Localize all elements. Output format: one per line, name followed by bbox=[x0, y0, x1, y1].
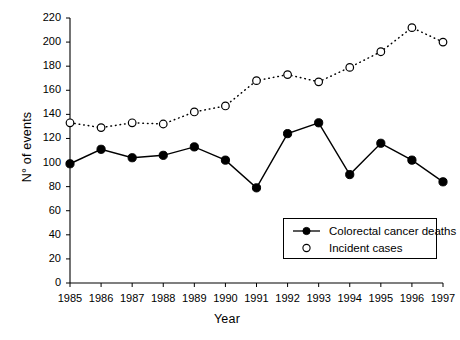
data-point bbox=[191, 108, 199, 116]
x-tick-label: 1985 bbox=[53, 292, 87, 304]
legend-label-colorectal-cancer-deaths: Colorectal cancer deaths bbox=[329, 225, 456, 237]
data-point bbox=[222, 102, 230, 110]
data-point bbox=[97, 145, 105, 153]
y-tick-label: 140 bbox=[27, 107, 61, 119]
x-tick-label: 1992 bbox=[271, 292, 305, 304]
data-point bbox=[408, 156, 416, 164]
x-tick-label: 1993 bbox=[302, 292, 336, 304]
data-point bbox=[346, 170, 354, 178]
x-tick-label: 1988 bbox=[146, 292, 180, 304]
x-tick-label: 1989 bbox=[177, 292, 211, 304]
data-point bbox=[190, 143, 198, 151]
data-point bbox=[439, 38, 447, 46]
y-tick-label: 60 bbox=[27, 204, 61, 216]
y-tick-label: 80 bbox=[27, 180, 61, 192]
data-point bbox=[252, 184, 260, 192]
x-axis-ticks bbox=[70, 283, 443, 287]
data-point bbox=[408, 24, 416, 32]
data-point bbox=[159, 151, 167, 159]
x-tick-label: 1996 bbox=[395, 292, 429, 304]
data-point bbox=[66, 160, 74, 168]
data-point bbox=[159, 120, 167, 128]
data-point bbox=[97, 124, 105, 132]
data-point bbox=[315, 78, 323, 86]
y-tick-label: 120 bbox=[27, 131, 61, 143]
data-point bbox=[283, 130, 291, 138]
y-tick-label: 180 bbox=[27, 59, 61, 71]
series-markers-incident-cases bbox=[66, 24, 447, 132]
data-point bbox=[439, 178, 447, 186]
data-point bbox=[66, 119, 74, 127]
data-point bbox=[377, 48, 385, 56]
y-axis-ticks bbox=[66, 18, 70, 283]
legend-label-incident-cases: Incident cases bbox=[329, 242, 403, 254]
x-tick-label: 1994 bbox=[333, 292, 367, 304]
y-tick-label: 0 bbox=[27, 276, 61, 288]
y-tick-label: 40 bbox=[27, 228, 61, 240]
y-tick-label: 160 bbox=[27, 83, 61, 95]
x-tick-label: 1990 bbox=[208, 292, 242, 304]
data-point bbox=[377, 139, 385, 147]
data-point bbox=[346, 64, 354, 72]
x-tick-label: 1995 bbox=[364, 292, 398, 304]
y-tick-label: 20 bbox=[27, 252, 61, 264]
x-tick-label: 1997 bbox=[426, 292, 460, 304]
series-line-colorectal-cancer-deaths bbox=[70, 123, 443, 188]
y-tick-label: 220 bbox=[27, 11, 61, 23]
data-point bbox=[128, 119, 136, 127]
data-point bbox=[253, 77, 261, 85]
x-tick-label: 1991 bbox=[240, 292, 274, 304]
data-point bbox=[128, 154, 136, 162]
x-axis-title: Year bbox=[0, 312, 454, 326]
data-point bbox=[221, 156, 229, 164]
y-tick-label: 200 bbox=[27, 35, 61, 47]
x-tick-label: 1987 bbox=[115, 292, 149, 304]
y-tick-label: 100 bbox=[27, 156, 61, 168]
data-point bbox=[284, 71, 292, 79]
x-tick-label: 1986 bbox=[84, 292, 118, 304]
data-point bbox=[315, 119, 323, 127]
